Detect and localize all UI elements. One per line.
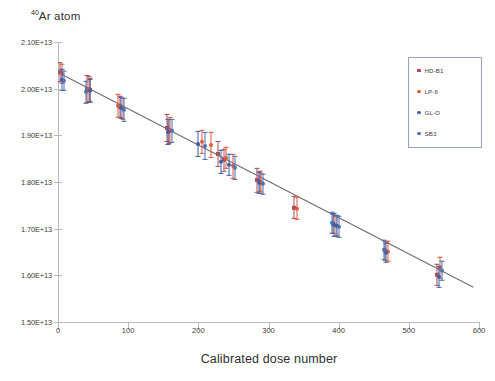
error-bar-cap — [439, 261, 444, 262]
point-marker — [62, 79, 66, 83]
point-marker — [330, 221, 334, 225]
error-bar-cap — [196, 131, 201, 132]
error-bar-cap — [260, 174, 265, 175]
x-axis-label: Calibrated dose number — [58, 352, 480, 366]
data-point — [336, 216, 342, 238]
error-bar-cap — [84, 81, 89, 82]
error-bar-cap — [169, 119, 174, 120]
y-tick-label: 1.50E+13 — [21, 318, 52, 327]
y-tick-label: 1.70E+13 — [21, 224, 52, 233]
x-tick-label: 500 — [402, 326, 415, 335]
error-bar-cap — [203, 132, 208, 133]
title-text: Ar atom — [39, 10, 81, 22]
point-marker — [295, 206, 299, 210]
data-point — [439, 261, 445, 282]
data-point — [381, 240, 387, 261]
error-bar-cap — [294, 219, 299, 220]
y-tick-mark — [54, 42, 62, 43]
point-marker — [227, 163, 231, 167]
legend-item-label: SB3 — [425, 130, 437, 137]
data-point — [232, 156, 238, 180]
error-bar-cap — [60, 63, 65, 64]
y-tick-label: 2.00E+13 — [21, 84, 52, 93]
point-marker — [170, 129, 174, 133]
point-marker — [84, 90, 88, 94]
data-point — [83, 81, 89, 103]
y-tick-mark — [54, 135, 62, 136]
error-bar-cap — [61, 71, 66, 72]
x-tick-label: 200 — [192, 326, 205, 335]
legend-item-label: GL-O — [425, 109, 441, 116]
point-marker — [382, 248, 386, 252]
data-point — [169, 119, 175, 143]
point-marker — [203, 144, 207, 148]
error-bar-cap — [218, 150, 223, 151]
data-point — [121, 98, 127, 122]
y-tick-label: 1.80E+13 — [21, 178, 52, 187]
error-bar-cap — [168, 116, 173, 117]
error-bar-cap — [166, 144, 171, 145]
error-bar-cap — [232, 179, 237, 180]
legend-swatch-icon — [417, 90, 421, 94]
y-tick-mark — [54, 229, 62, 230]
error-bar-cap — [260, 193, 265, 194]
x-tick-label: 400 — [332, 326, 345, 335]
error-bar-cap — [208, 132, 213, 133]
y-tick-label: 1.60E+13 — [21, 271, 52, 280]
data-point — [195, 131, 201, 157]
page-title: 40Ar atom — [31, 9, 80, 22]
x-tick-label: 0 — [56, 326, 60, 335]
error-bar-cap — [218, 173, 223, 174]
error-bar-cap — [203, 159, 208, 160]
legend-item-lp-6: LP-6 — [417, 88, 438, 95]
x-tick-label: 100 — [122, 326, 135, 335]
legend-item-label: HD-B1 — [425, 67, 444, 74]
x-tick-label: 600 — [473, 326, 486, 335]
error-bar-cap — [336, 216, 341, 217]
error-bar-cap — [61, 90, 66, 91]
error-bar-cap — [438, 256, 443, 257]
data-point — [329, 212, 335, 234]
legend-swatch-icon — [417, 111, 421, 115]
data-point — [294, 197, 300, 219]
chart-figure: 40Ar atom 1.50E+131.60E+131.70E+131.80E+… — [0, 0, 495, 381]
error-bar-cap — [121, 121, 126, 122]
error-bar-cap — [439, 280, 444, 281]
error-bar-cap — [121, 98, 126, 99]
error-bar-cap — [227, 154, 232, 155]
error-bar-cap — [329, 212, 334, 213]
error-bar-cap — [59, 69, 64, 70]
y-tick-mark — [54, 275, 62, 276]
legend-swatch-icon — [417, 69, 421, 73]
chart-legend: HD-B1LP-6GL-OSB3 — [408, 57, 482, 148]
error-bar-cap — [381, 240, 386, 241]
point-marker — [209, 143, 213, 147]
error-bar-cap — [164, 114, 169, 115]
error-bar-cap — [294, 197, 299, 198]
data-point — [208, 132, 214, 158]
y-tick-mark — [54, 182, 62, 183]
data-point — [260, 174, 266, 195]
error-bar-cap — [255, 168, 260, 169]
y-tick-label: 2.10E+13 — [21, 38, 52, 47]
error-bar-cap — [116, 94, 121, 95]
error-bar-cap — [215, 141, 220, 142]
point-marker — [233, 166, 237, 170]
error-bar-cap — [86, 76, 91, 77]
legend-swatch-icon — [417, 132, 421, 136]
data-point — [218, 150, 224, 174]
error-bar-cap — [232, 156, 237, 157]
legend-item-sb3: SB3 — [417, 130, 437, 137]
point-marker — [122, 108, 126, 112]
legend-item-gl-o: GL-O — [417, 109, 440, 116]
point-marker — [337, 225, 341, 229]
error-bar-cap — [196, 156, 201, 157]
error-bar-cap — [84, 102, 89, 103]
point-marker — [196, 142, 200, 146]
y-tick-mark — [54, 89, 62, 90]
data-point — [202, 132, 208, 160]
point-marker — [261, 182, 265, 186]
title-superscript: 40 — [31, 9, 39, 16]
y-tick-label: 1.90E+13 — [21, 131, 52, 140]
error-bar-cap — [224, 146, 229, 147]
